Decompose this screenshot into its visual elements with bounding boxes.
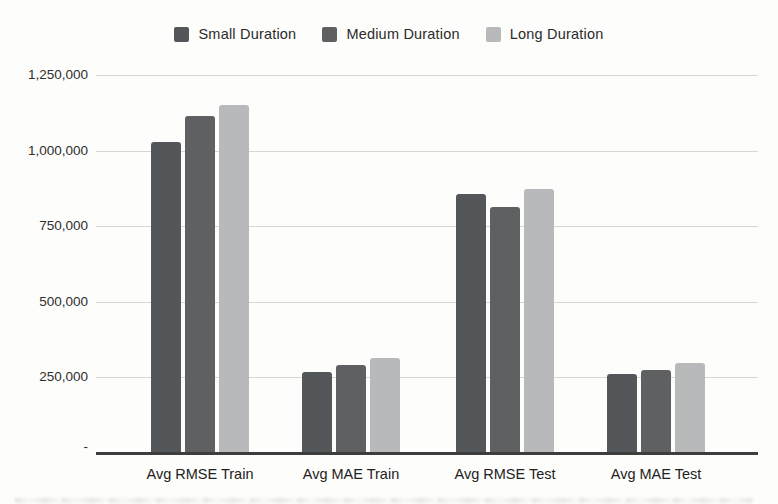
x-tick-label-avg-mae-test: Avg MAE Test <box>581 464 731 484</box>
y-tick-label: 750,000 <box>0 218 88 234</box>
y-tick-label: 1,250,000 <box>0 67 88 83</box>
bar-small-duration-avg-mae-test <box>607 374 637 453</box>
bar-medium-duration-avg-rmse-train <box>185 116 215 453</box>
x-tick-label-avg-mae-train: Avg MAE Train <box>276 464 426 484</box>
x-tick-label-avg-rmse-train: Avg RMSE Train <box>125 464 275 484</box>
bar-small-duration-avg-rmse-test <box>456 194 486 453</box>
y-tick-label: 1,000,000 <box>0 143 88 159</box>
bar-long-duration-avg-mae-test <box>675 363 705 453</box>
bar-long-duration-avg-rmse-test <box>524 189 554 453</box>
bar-chart: Small DurationMedium DurationLong Durati… <box>0 0 778 504</box>
bar-small-duration-avg-rmse-train <box>151 142 181 453</box>
legend-swatch-icon <box>174 27 189 42</box>
bar-small-duration-avg-mae-train <box>302 372 332 453</box>
legend-item-small-duration: Small Duration <box>174 26 296 42</box>
legend-label: Medium Duration <box>346 26 459 42</box>
legend-swatch-icon <box>486 27 501 42</box>
bar-long-duration-avg-rmse-train <box>219 105 249 453</box>
plot-area <box>96 75 758 453</box>
legend-item-long-duration: Long Duration <box>486 26 604 42</box>
chart-legend: Small DurationMedium DurationLong Durati… <box>0 24 778 44</box>
x-tick-label-avg-rmse-test: Avg RMSE Test <box>430 464 580 484</box>
gridline <box>96 75 758 76</box>
legend-label: Long Duration <box>510 26 604 42</box>
y-tick-label: 250,000 <box>0 369 88 385</box>
y-tick-label: - <box>0 439 88 455</box>
legend-swatch-icon <box>322 27 337 42</box>
bar-long-duration-avg-mae-train <box>370 358 400 453</box>
bar-medium-duration-avg-rmse-test <box>490 207 520 453</box>
bar-medium-duration-avg-mae-train <box>336 365 366 453</box>
y-tick-label: 500,000 <box>0 294 88 310</box>
legend-item-medium-duration: Medium Duration <box>322 26 459 42</box>
scan-artifact <box>15 498 753 503</box>
legend-label: Small Duration <box>198 26 296 42</box>
x-axis-line <box>96 452 758 455</box>
bar-medium-duration-avg-mae-test <box>641 370 671 453</box>
